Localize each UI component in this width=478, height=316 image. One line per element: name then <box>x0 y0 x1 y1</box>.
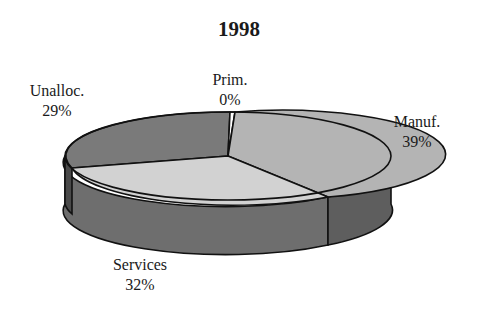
label-services-name: Services <box>100 255 180 275</box>
pie-chart <box>0 0 478 316</box>
label-manuf: Manuf. 39% <box>382 112 452 152</box>
label-unalloc-name: Unalloc. <box>22 81 92 101</box>
label-manuf-name: Manuf. <box>382 112 452 132</box>
label-unalloc-pct: 29% <box>22 101 92 121</box>
label-prim-name: Prim. <box>205 70 255 90</box>
label-prim: Prim. 0% <box>205 70 255 110</box>
label-manuf-pct: 39% <box>382 132 452 152</box>
label-services: Services 32% <box>100 255 180 295</box>
label-prim-pct: 0% <box>205 90 255 110</box>
label-unalloc: Unalloc. 29% <box>22 81 92 121</box>
label-services-pct: 32% <box>100 275 180 295</box>
